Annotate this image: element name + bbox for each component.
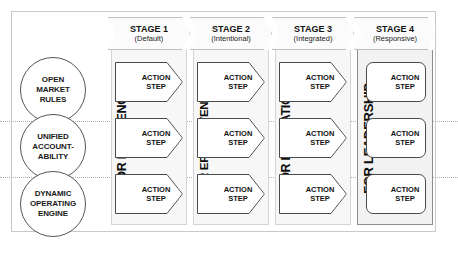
stage-title: STAGE 2 xyxy=(212,24,250,34)
action-step-line1: ACTION xyxy=(306,185,335,194)
action-step-line1: ACTION xyxy=(142,73,171,82)
action-step-line1: ACTION xyxy=(391,185,420,194)
stage-banner-stage-3[interactable]: STAGE 3 (Integrated) xyxy=(272,17,354,50)
stage-column-stage-3[interactable]: STAGE 3 (Integrated) FOR INNOVATION ACTI… xyxy=(272,17,354,225)
action-step-line2: STEP xyxy=(395,194,415,203)
action-step-line1: ACTION xyxy=(224,73,253,82)
stage-subtitle: (Default) xyxy=(135,35,164,44)
action-step-line2: STEP xyxy=(395,138,415,147)
principle-line: DYNAMIC xyxy=(35,189,72,199)
action-step-line1: ACTION xyxy=(306,129,335,138)
stage-column-stage-1[interactable]: STAGE 1 (Default) FOR EFFICIENCY ACTION … xyxy=(108,17,190,225)
principle-line: ACCOUNT- xyxy=(32,142,73,152)
action-step-line2: STEP xyxy=(310,194,330,203)
stage-banner-stage-2[interactable]: STAGE 2 (Intentional) xyxy=(190,17,272,50)
action-step-line2: STEP xyxy=(310,82,330,91)
action-step-line2: STEP xyxy=(146,138,166,147)
action-step-line2: STEP xyxy=(228,138,248,147)
stage-subtitle: (Intentional) xyxy=(211,35,251,44)
stage-subtitle: (Integrated) xyxy=(294,35,333,44)
stage-subtitle: (Responsive) xyxy=(373,35,417,44)
principle-line: OPERATING xyxy=(30,199,76,209)
action-step-line2: STEP xyxy=(228,82,248,91)
principle-line: OPEN xyxy=(42,75,64,85)
principle-line: ABILITY xyxy=(38,152,68,162)
action-step[interactable]: ACTION STEP xyxy=(366,118,426,158)
action-step[interactable]: ACTION STEP xyxy=(366,174,426,214)
action-step-line1: ACTION xyxy=(306,73,335,82)
diagram-canvas: OPEN MARKET RULES UNIFIED ACCOUNT- ABILI… xyxy=(0,0,458,255)
action-step-line1: ACTION xyxy=(391,129,420,138)
stage-column-stage-2[interactable]: STAGE 2 (Intentional) FOR EFFECTIVENESS … xyxy=(190,17,272,225)
action-step-line1: ACTION xyxy=(224,185,253,194)
action-step-line2: STEP xyxy=(146,194,166,203)
action-step-line2: STEP xyxy=(395,82,415,91)
stage-column-stage-4[interactable]: STAGE 4 (Responsive) FOR LEADERSHIP ACTI… xyxy=(354,17,436,225)
stage-title: STAGE 3 xyxy=(294,24,332,34)
action-step-line1: ACTION xyxy=(142,129,171,138)
action-step-line1: ACTION xyxy=(142,185,171,194)
action-step-line1: ACTION xyxy=(391,73,420,82)
principle-line: ENGINE xyxy=(38,209,68,219)
stage-banner-stage-4[interactable]: STAGE 4 (Responsive) xyxy=(354,17,436,50)
stage-title: STAGE 4 xyxy=(376,24,414,34)
stage-banner-stage-1[interactable]: STAGE 1 (Default) xyxy=(108,17,190,50)
action-step-line2: STEP xyxy=(146,82,166,91)
principle-line: RULES xyxy=(40,95,67,105)
principle-line: UNIFIED xyxy=(37,132,68,142)
action-step-line1: ACTION xyxy=(224,129,253,138)
stage-title: STAGE 1 xyxy=(130,24,168,34)
principle-circle-dynamic-operating-engine[interactable]: DYNAMIC OPERATING ENGINE xyxy=(20,171,86,237)
action-step[interactable]: ACTION STEP xyxy=(366,62,426,102)
action-step-line2: STEP xyxy=(228,194,248,203)
action-step-line2: STEP xyxy=(310,138,330,147)
principle-line: MARKET xyxy=(36,85,70,95)
